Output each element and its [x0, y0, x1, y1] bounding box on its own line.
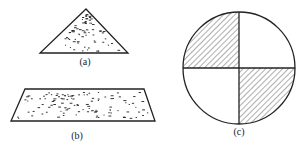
hatched-quadrant-top-left: [183, 12, 239, 68]
label-a: (a): [79, 56, 90, 67]
label-c: (c): [233, 126, 244, 137]
label-b: (b): [71, 130, 83, 141]
circle-panel-c: [183, 12, 295, 124]
hatched-quadrant-bottom-right: [239, 68, 295, 124]
parallelogram-panel-b: [11, 89, 155, 121]
diagram-canvas: [0, 0, 305, 150]
triangle-panel-a: [40, 9, 128, 53]
